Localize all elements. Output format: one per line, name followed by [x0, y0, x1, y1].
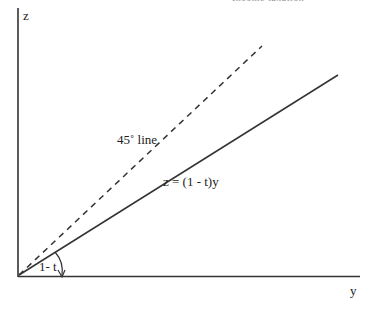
45-degree-line [19, 46, 262, 275]
45-line-label: 45˚ line [117, 132, 157, 148]
tax-line-label: z = (1 - t)y [163, 174, 219, 190]
y-axis-label: y [350, 283, 357, 299]
angle-label: 1- t [39, 259, 57, 275]
z-axis-label: z [23, 8, 29, 24]
